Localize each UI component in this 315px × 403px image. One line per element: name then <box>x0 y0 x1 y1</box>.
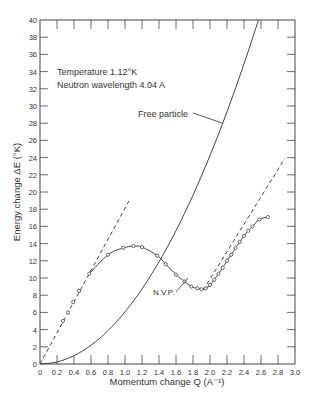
x-tick-label: 0.4 <box>69 368 79 377</box>
data-point <box>190 285 193 288</box>
nvp-label: N.V.P. <box>153 288 174 297</box>
data-markers <box>61 215 269 322</box>
data-point <box>225 259 228 262</box>
data-point <box>132 245 135 248</box>
x-tick-label: 3.0 <box>290 368 300 377</box>
y-tick-label: 16 <box>29 222 37 231</box>
y-tick-label: 40 <box>29 16 37 25</box>
dashed-slope-line <box>203 158 285 290</box>
y-tick-label: 8 <box>33 291 37 300</box>
y-tick-label: 30 <box>29 102 37 111</box>
data-point <box>156 254 159 257</box>
data-point <box>72 300 75 303</box>
x-tick-label: 2.4 <box>239 368 249 377</box>
data-point <box>234 246 237 249</box>
data-point <box>251 225 254 228</box>
y-tick-label: 34 <box>29 68 37 77</box>
data-point <box>106 253 109 256</box>
y-tick-label: 0 <box>33 360 37 369</box>
y-axis-label: Energy change ΔE (°K) <box>11 143 22 241</box>
y-tick-label: 18 <box>29 205 37 214</box>
y-tick-label: 28 <box>29 119 37 128</box>
data-point <box>204 287 207 290</box>
data-point <box>66 311 69 314</box>
data-point <box>208 283 211 286</box>
data-point <box>122 246 125 249</box>
y-tick-label: 26 <box>29 136 37 145</box>
y-tick-label: 2 <box>33 343 37 352</box>
x-tick-label: 2.8 <box>273 368 283 377</box>
data-point <box>221 266 224 269</box>
x-tick-label: 2.6 <box>256 368 266 377</box>
temperature-annotation: Temperature 1.12°K <box>57 67 137 77</box>
data-point <box>247 229 250 232</box>
data-point <box>242 234 245 237</box>
data-point <box>200 288 203 291</box>
wavelength-annotation: Neutron wavelength 4.04 A <box>57 80 165 90</box>
x-tick-label: 0.6 <box>86 368 96 377</box>
x-tick-label: 0 <box>38 368 42 377</box>
data-point <box>230 253 233 256</box>
y-tick-label: 4 <box>33 326 37 335</box>
data-point <box>238 240 241 243</box>
y-tick-label: 38 <box>29 33 37 42</box>
data-point <box>61 319 64 322</box>
y-tick-label: 14 <box>29 240 37 249</box>
data-point <box>140 245 143 248</box>
data-point <box>78 289 81 292</box>
data-point <box>164 263 167 266</box>
data-point <box>88 272 91 275</box>
data-point <box>266 215 269 218</box>
y-tick-label: 6 <box>33 308 37 317</box>
dispersion-chart: 00.20.40.60.81.01.21.41.61.82.02.22.42.6… <box>0 0 315 403</box>
y-tick-label: 24 <box>29 154 37 163</box>
free-particle-label: Free particle <box>138 109 188 119</box>
data-point <box>174 273 177 276</box>
data-point <box>213 278 216 281</box>
dispersion-curve <box>89 217 267 289</box>
data-point <box>258 218 261 221</box>
y-tick-label: 12 <box>29 257 37 266</box>
y-tick-label: 36 <box>29 50 37 59</box>
data-point <box>196 287 199 290</box>
y-tick-label: 22 <box>29 171 37 180</box>
y-tick-label: 20 <box>29 188 37 197</box>
y-tick-label: 10 <box>29 274 37 283</box>
x-axis-label: Momentum change Q (A⁻¹) <box>110 376 225 387</box>
y-tick-label: 32 <box>29 85 37 94</box>
free-particle-pointer <box>193 113 222 123</box>
data-point <box>217 272 220 275</box>
x-tick-label: 0.2 <box>52 368 62 377</box>
dashed-slope-line <box>40 199 130 364</box>
